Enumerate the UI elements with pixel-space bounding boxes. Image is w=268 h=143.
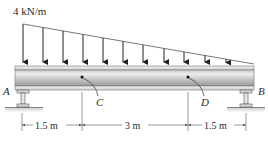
point-a-label: A <box>2 85 10 97</box>
dimension-ac-label: 1.5 m <box>35 120 58 131</box>
beam <box>15 66 254 90</box>
point-b-label: B <box>258 85 265 97</box>
dimension-db-label: 1.5 m <box>204 120 227 131</box>
support-a <box>5 90 43 113</box>
load-label: 4 kN/m <box>13 5 47 17</box>
distributed-load <box>23 24 254 64</box>
point-d-label: D <box>200 96 209 108</box>
beam-diagram: 4 kN/m <box>0 0 268 143</box>
dimension-cd-label: 3 m <box>125 120 141 131</box>
point-c-label: C <box>96 96 104 108</box>
